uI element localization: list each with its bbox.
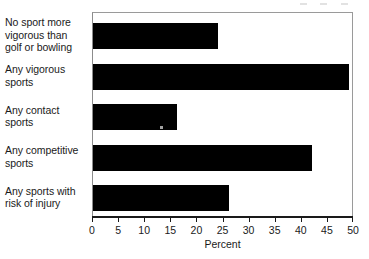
category-label: Any contactsports <box>5 104 88 129</box>
bars-container <box>93 13 352 216</box>
category-label-line: sports <box>5 76 88 88</box>
x-axis-tick-label: 5 <box>115 224 121 236</box>
scan-artifact <box>160 126 163 129</box>
plot-area <box>92 12 353 217</box>
category-label-line: golf or bowling <box>5 41 88 53</box>
category-label-line: vigorous than <box>5 29 88 41</box>
x-axis-tick-label: 0 <box>89 224 95 236</box>
x-axis-tick <box>249 216 250 222</box>
x-axis-tick-label: 35 <box>269 224 281 236</box>
bar <box>93 64 349 90</box>
bar <box>93 23 218 49</box>
category-label-line: Any competitive <box>5 144 88 156</box>
x-axis-tick-label: 25 <box>217 224 229 236</box>
scan-artifact <box>341 3 348 5</box>
category-label-line: Any sports with <box>5 185 88 197</box>
category-label-line: sports <box>5 157 88 169</box>
category-axis-labels: No sport morevigorous thangolf or bowlin… <box>0 12 88 216</box>
x-axis-tick-label: 45 <box>321 224 333 236</box>
x-axis-tick <box>327 216 328 222</box>
x-axis-tick-label: 20 <box>191 224 203 236</box>
x-axis-title: Percent <box>92 238 353 250</box>
x-axis-tick <box>275 216 276 222</box>
x-axis-tick-label: 10 <box>138 224 150 236</box>
category-label: Any competitivesports <box>5 144 88 169</box>
x-axis-tick <box>223 216 224 222</box>
x-axis-tick <box>118 216 119 222</box>
category-label-line: sports <box>5 116 88 128</box>
category-label: Any vigoroussports <box>5 63 88 88</box>
x-axis-tick <box>301 216 302 222</box>
x-axis-tick <box>144 216 145 222</box>
category-label-line: Any contact <box>5 104 88 116</box>
x-axis-tick <box>352 216 353 222</box>
x-axis-tick-label: 30 <box>243 224 255 236</box>
x-axis-tick <box>92 216 93 222</box>
category-label-line: Any vigorous <box>5 63 88 75</box>
scan-artifact <box>320 3 327 5</box>
bar <box>93 104 177 130</box>
category-label-line: risk of injury <box>5 197 88 209</box>
bar <box>93 185 229 211</box>
x-axis: 05101520253035404550 <box>92 216 353 218</box>
bar-chart: No sport morevigorous thangolf or bowlin… <box>0 0 369 259</box>
x-axis-tick <box>170 216 171 222</box>
x-axis-tick <box>196 216 197 222</box>
category-label: Any sports withrisk of injury <box>5 185 88 210</box>
x-axis-tick-label: 50 <box>347 224 359 236</box>
category-label-line: No sport more <box>5 16 88 28</box>
scan-artifact <box>300 3 307 5</box>
x-axis-tick-label: 40 <box>295 224 307 236</box>
category-label: No sport morevigorous thangolf or bowlin… <box>5 16 88 53</box>
bar <box>93 145 312 171</box>
x-axis-tick-label: 15 <box>164 224 176 236</box>
